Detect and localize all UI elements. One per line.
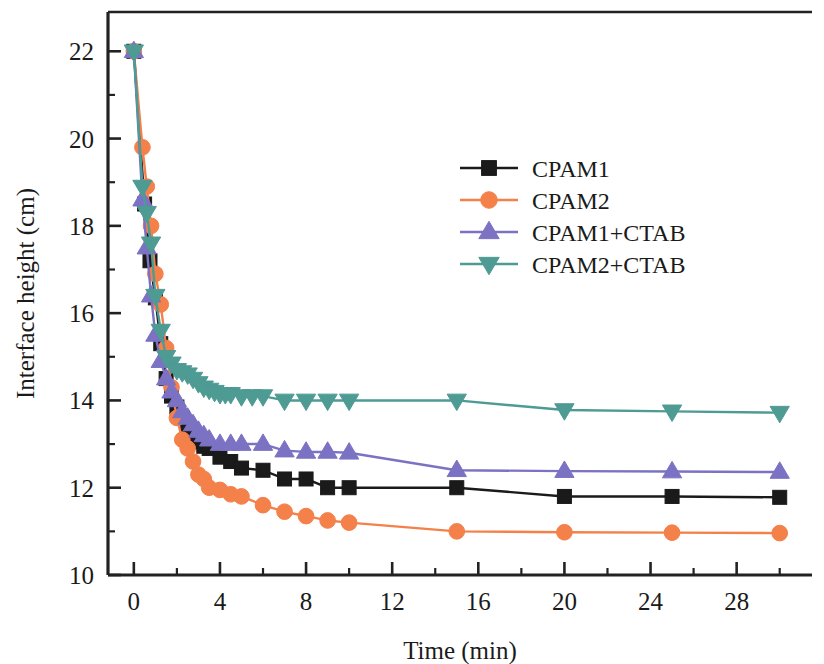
data-point [665,489,679,503]
x-tick-label: 8 [300,588,313,615]
data-point [256,463,270,477]
data-point [255,497,271,513]
data-point [296,442,315,458]
data-point [234,489,250,505]
chart-legend: CPAM1CPAM2CPAM1+CTABCPAM2+CTAB [460,156,685,278]
y-tick-label: 10 [69,562,94,589]
y-tick-label: 12 [69,475,94,502]
data-point [277,504,293,520]
data-point [234,461,248,475]
data-point [557,489,571,503]
data-point [555,404,574,420]
data-point [555,461,574,477]
x-tick-label: 16 [466,588,491,615]
y-tick-label: 20 [69,126,94,153]
legend-marker-icon [482,161,497,176]
y-axis-title: Interface height (cm) [12,188,40,399]
data-point [770,406,789,422]
x-tick-label: 24 [638,588,664,615]
legend-item[interactable]: CPAM1 [460,156,610,182]
x-tick-label: 20 [552,588,577,615]
chart-figure: 048121620242810121416182022Time (min)Int… [0,0,824,664]
data-point [298,508,314,524]
data-point [342,481,356,495]
legend-label: CPAM2+CTAB [532,252,685,278]
data-point [320,513,336,529]
data-point [275,394,294,410]
data-point [449,524,465,540]
interface-height-vs-time-chart: 048121620242810121416182022Time (min)Int… [0,0,824,664]
data-point [664,525,680,541]
data-point [770,462,789,478]
y-tick-label: 14 [69,387,95,414]
legend-label: CPAM1 [532,156,610,182]
x-tick-label: 12 [380,588,405,615]
data-point [773,490,787,504]
data-point [318,394,337,410]
axis-titles-group: Time (min)Interface height (cm) [12,188,517,664]
data-point [135,139,151,155]
data-point [296,394,315,410]
data-point [772,525,788,541]
data-point [278,472,292,486]
legend-item[interactable]: CPAM1+CTAB [460,220,685,246]
data-point [318,442,337,458]
data-point [339,443,358,459]
data-point [341,515,357,531]
data-point [447,394,466,410]
legend-item[interactable]: CPAM2+CTAB [460,252,685,278]
data-point [557,524,573,540]
data-point [450,481,464,495]
legend-item[interactable]: CPAM2 [460,188,610,214]
data-point [253,434,272,450]
y-tick-label: 22 [69,38,94,65]
legend-marker-icon [479,257,499,274]
data-point [662,405,681,421]
y-tick-label: 16 [69,300,94,327]
series-cpam1 [127,44,787,504]
data-point [321,481,335,495]
legend-label: CPAM1+CTAB [532,220,685,246]
x-tick-label: 0 [128,588,141,615]
legend-marker-icon [481,192,498,209]
x-axis-title: Time (min) [403,637,517,664]
y-tick-label: 18 [69,213,94,240]
data-point [662,461,681,477]
series-cpam2-ctab [124,45,789,423]
data-point [299,472,313,486]
legend-marker-icon [479,221,499,238]
data-point [339,394,358,410]
x-tick-label: 4 [214,588,227,615]
legend-label: CPAM2 [532,188,610,214]
x-tick-label: 28 [724,588,749,615]
